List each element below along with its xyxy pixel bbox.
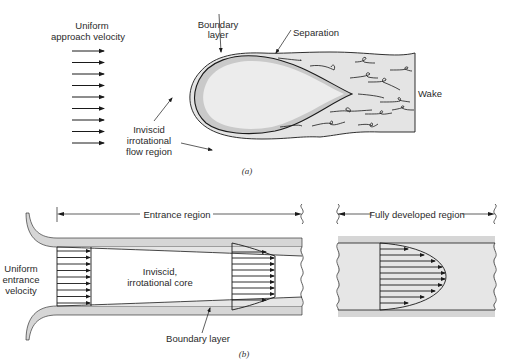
caption-a: (a) xyxy=(242,166,253,176)
separation-leader xyxy=(276,30,291,53)
flow-diagram: Uniform approach velocity xyxy=(0,0,507,362)
uniform-velocity-profile xyxy=(57,247,91,306)
core-label-1: Inviscid, xyxy=(143,266,177,277)
inviscid-region-label-3: flow region xyxy=(126,146,172,157)
panel-a: Uniform approach velocity xyxy=(51,14,442,176)
fully-developed-core xyxy=(338,243,495,310)
approach-velocity-label-2: approach velocity xyxy=(51,31,125,42)
inviscid-region-label-2: irrotational xyxy=(127,135,171,146)
core-label-2: irrotational core xyxy=(127,277,192,288)
boundary-layer-b-label: Boundary layer xyxy=(166,333,230,344)
inviscid-region-label-1: Inviscid xyxy=(133,124,165,135)
approach-velocity-arrows xyxy=(72,51,104,143)
inviscid-leader-1 xyxy=(154,98,172,121)
wake-label: Wake xyxy=(418,88,442,99)
uniform-entrance-label-3: velocity xyxy=(5,285,37,296)
approach-velocity-label-1: Uniform xyxy=(75,20,108,31)
uniform-entrance-label-1: Uniform xyxy=(4,263,37,274)
uniform-entrance-label-2: entrance xyxy=(3,274,40,285)
entrance-dim-arrow-left xyxy=(57,212,64,216)
caption-b: (b) xyxy=(239,349,250,359)
separation-label: Separation xyxy=(293,27,339,38)
entrance-region-label: Entrance region xyxy=(143,209,210,220)
panel-b: Entrance region xyxy=(3,204,497,359)
pipe-lower-wall xyxy=(26,306,302,340)
boundary-layer-label-2: layer xyxy=(208,29,229,40)
fully-developed-label: Fully developed region xyxy=(369,209,465,220)
inviscid-leader-2 xyxy=(181,143,212,150)
